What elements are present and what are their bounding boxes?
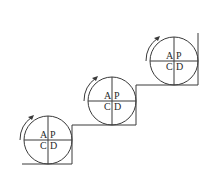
quadrant-a: A — [40, 129, 48, 140]
pdca-cycle-3: A P C D — [146, 36, 198, 85]
quadrant-p: P — [114, 90, 120, 101]
quadrant-a: A — [166, 50, 174, 61]
rotation-arrow-icon — [84, 78, 96, 101]
pdca-staircase-diagram: A P C D A P C D A P C D — [0, 0, 214, 183]
pdca-cycle-2: A P C D — [84, 76, 136, 125]
quadrant-p: P — [176, 50, 182, 61]
quadrant-d: D — [114, 101, 121, 112]
quadrant-c: C — [166, 61, 173, 72]
quadrant-c: C — [40, 140, 47, 151]
rotation-arrow-icon — [20, 117, 32, 140]
quadrant-a: A — [104, 90, 112, 101]
quadrant-d: D — [176, 61, 183, 72]
pdca-cycle-1: A P C D — [20, 115, 72, 164]
quadrant-p: P — [50, 129, 56, 140]
rotation-arrow-icon — [146, 38, 158, 61]
quadrant-d: D — [50, 140, 57, 151]
quadrant-c: C — [104, 101, 111, 112]
